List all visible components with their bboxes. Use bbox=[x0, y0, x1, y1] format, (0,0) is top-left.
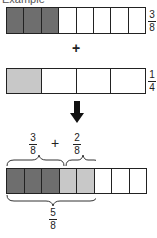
fraction-bar-eighths bbox=[6, 7, 146, 34]
bar-cell-shaded bbox=[7, 169, 25, 193]
bar-cell bbox=[77, 8, 94, 33]
bar-cell-shaded bbox=[7, 8, 24, 33]
bar-cell bbox=[111, 8, 128, 33]
denominator: 4 bbox=[149, 83, 155, 93]
bar-cell bbox=[77, 69, 112, 93]
plus-sign: + bbox=[51, 135, 59, 151]
bar-cell-shaded bbox=[24, 8, 41, 33]
fraction-five-eighths: 5 8 bbox=[49, 208, 57, 231]
bar-cell bbox=[130, 169, 147, 193]
fraction-bar-quarters bbox=[6, 68, 146, 94]
fraction-label-bar2: 1 4 bbox=[148, 70, 156, 93]
brace-bottom bbox=[6, 195, 96, 207]
down-arrow-icon bbox=[70, 101, 84, 123]
plus-sign: + bbox=[72, 40, 80, 56]
denominator: 8 bbox=[50, 221, 56, 231]
fraction-three-eighths: 3 8 bbox=[29, 133, 37, 156]
bar-cell bbox=[94, 8, 111, 33]
numerator: 1 bbox=[149, 70, 155, 80]
denominator: 8 bbox=[149, 23, 155, 33]
fraction-bar-result bbox=[6, 168, 147, 194]
numerator: 2 bbox=[74, 133, 80, 143]
numerator: 5 bbox=[50, 208, 56, 218]
bar-cell-shaded bbox=[42, 8, 59, 33]
numerator: 3 bbox=[149, 10, 155, 20]
bar-cell bbox=[95, 169, 113, 193]
fraction-label-bar1: 3 8 bbox=[148, 10, 156, 33]
bar-cell bbox=[42, 69, 77, 93]
bar-cell-shaded bbox=[25, 169, 43, 193]
numerator: 3 bbox=[30, 133, 36, 143]
bar-cell bbox=[111, 69, 145, 93]
bar-cell-shaded bbox=[7, 69, 42, 93]
bar-cell-shaded bbox=[42, 169, 60, 193]
example-title: Example bbox=[2, 0, 45, 5]
brace-top bbox=[6, 155, 96, 167]
bar-cell-shaded-light bbox=[77, 169, 95, 193]
fraction-two-eighths: 2 8 bbox=[73, 133, 81, 156]
bar-cell bbox=[112, 169, 130, 193]
bar-cell bbox=[59, 8, 76, 33]
bar-cell bbox=[129, 8, 145, 33]
bar-cell-shaded-light bbox=[60, 169, 78, 193]
